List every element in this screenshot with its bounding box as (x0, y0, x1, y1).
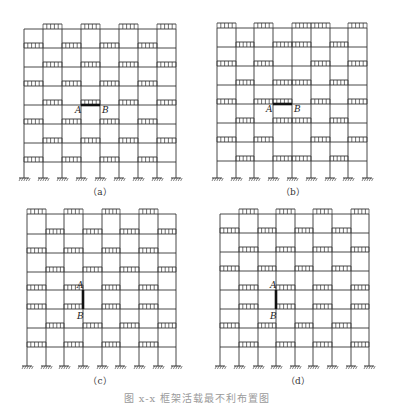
live-load-icon (313, 342, 332, 347)
live-load-icon (158, 267, 176, 272)
point-label-a: A (269, 280, 277, 290)
fixed-support-icon (41, 366, 52, 369)
live-load-icon (100, 43, 119, 48)
fixed-support-icon (115, 366, 126, 369)
point-label-a: A (74, 105, 82, 115)
live-load-icon (330, 42, 348, 47)
fixed-support-icon (253, 366, 264, 369)
live-load-icon (332, 323, 351, 328)
fixed-support-icon (362, 178, 373, 181)
fixed-support-icon (287, 178, 298, 181)
fixed-support-icon (134, 366, 145, 369)
live-load-icon (313, 247, 332, 252)
live-load-icon (46, 267, 64, 272)
live-load-icon (102, 342, 120, 347)
live-load-icon (239, 304, 258, 309)
live-load-icon (120, 229, 139, 234)
live-load-icon (292, 156, 311, 161)
live-load-icon (158, 229, 176, 234)
live-load-icon (64, 248, 83, 253)
live-load-icon (119, 24, 138, 29)
live-load-icon (236, 42, 254, 47)
live-load-icon (24, 43, 43, 48)
live-load-icon (100, 81, 119, 86)
live-load-icon (330, 156, 348, 161)
fixed-support-icon (171, 178, 182, 181)
live-load-icon (139, 304, 158, 309)
live-load-icon (100, 119, 119, 124)
live-load-icon (139, 248, 158, 253)
live-load-icon (46, 229, 64, 234)
live-load-icon (348, 99, 367, 104)
fixed-support-icon (327, 366, 338, 369)
fixed-support-icon (22, 366, 33, 369)
live-load-icon (292, 23, 311, 28)
fixed-support-icon (249, 178, 260, 181)
live-load-icon (81, 62, 100, 67)
live-load-icon (258, 323, 276, 328)
fixed-support-icon (97, 366, 108, 369)
live-load-icon (120, 267, 139, 272)
live-load-icon (295, 266, 313, 271)
live-load-icon (220, 266, 239, 271)
panel-a: AB（a） (19, 24, 182, 197)
live-load-icon (138, 119, 157, 124)
live-load-icon (24, 119, 43, 124)
panel-d: AB（d） (215, 209, 375, 386)
live-load-icon (81, 24, 100, 29)
live-load-icon (273, 42, 292, 47)
fixed-support-icon (133, 178, 144, 181)
live-load-icon (81, 138, 100, 143)
live-load-icon (62, 43, 81, 48)
live-load-icon (258, 228, 276, 233)
live-load-icon (102, 285, 120, 290)
live-load-icon (138, 81, 157, 86)
live-load-icon (138, 43, 157, 48)
live-load-icon (348, 23, 367, 28)
live-load-icon (330, 118, 348, 123)
live-load-icon (239, 285, 258, 290)
fixed-support-icon (78, 366, 89, 369)
live-load-icon (348, 137, 367, 142)
live-load-icon (295, 228, 313, 233)
live-load-icon (120, 323, 139, 328)
point-label-a: A (265, 104, 273, 114)
fixed-support-icon (19, 178, 30, 181)
live-load-icon (43, 100, 62, 105)
live-load-icon (27, 342, 46, 347)
live-load-icon (217, 137, 236, 142)
live-load-icon (62, 157, 81, 162)
fixed-support-icon (95, 178, 106, 181)
fixed-support-icon (306, 178, 317, 181)
live-load-icon (311, 137, 330, 142)
live-load-icon (313, 285, 332, 290)
live-load-icon (311, 99, 330, 104)
fixed-support-icon (325, 178, 336, 181)
live-load-icon (217, 61, 236, 66)
live-load-icon (100, 157, 119, 162)
live-load-icon (311, 61, 330, 66)
live-load-icon (254, 23, 273, 28)
live-load-icon (102, 209, 120, 214)
live-load-icon (157, 24, 176, 29)
panel-label: （c） (88, 376, 111, 386)
live-load-icon (138, 157, 157, 162)
fixed-support-icon (152, 178, 163, 181)
panel-b: AB（b） (212, 23, 373, 197)
live-load-icon (139, 285, 158, 290)
live-load-icon (292, 118, 311, 123)
live-load-icon (351, 285, 369, 290)
live-load-icon (351, 247, 369, 252)
live-load-icon (139, 342, 158, 347)
live-load-icon (273, 156, 292, 161)
frame-load-diagram: AB（a） AB（b） AB（c） AB（d） (0, 0, 394, 408)
live-load-icon (220, 228, 239, 233)
live-load-icon (64, 304, 83, 309)
live-load-icon (157, 62, 176, 67)
live-load-icon (64, 209, 83, 214)
live-load-icon (43, 138, 62, 143)
live-load-icon (313, 304, 332, 309)
live-load-icon (220, 323, 239, 328)
live-load-icon (119, 138, 138, 143)
live-load-icon (273, 118, 292, 123)
